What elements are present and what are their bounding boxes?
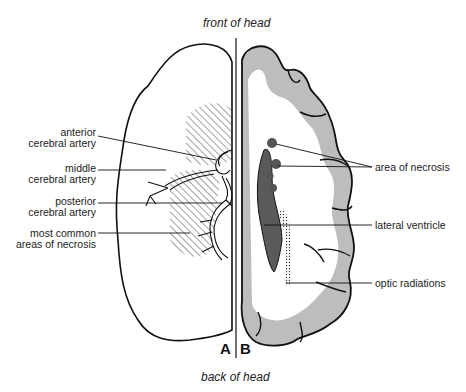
label-anterior-cerebral-artery: anterior cerebral artery <box>28 127 96 149</box>
label-back-of-head: back of head <box>201 372 270 383</box>
label-most-common-necrosis: most common areas of necrosis <box>16 228 96 250</box>
label-middle-cerebral-artery: middle cerebral artery <box>28 163 96 185</box>
label-front-of-head: front of head <box>203 18 270 29</box>
panel-label-a: A <box>220 340 231 357</box>
panel-label-b: B <box>240 340 251 357</box>
brain-diagram: front of head back of head A B anterior … <box>0 0 466 392</box>
label-area-of-necrosis: area of necrosis <box>375 162 450 173</box>
label-optic-radiations: optic radiations <box>375 278 446 289</box>
label-lateral-ventricle: lateral ventricle <box>375 220 446 231</box>
label-posterior-cerebral-artery: posterior cerebral artery <box>28 196 96 218</box>
hatched-area-upper <box>186 103 232 165</box>
